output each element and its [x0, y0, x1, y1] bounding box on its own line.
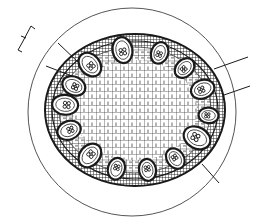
vascular-bundle: [198, 107, 219, 124]
stem-cross-section-diagram: [0, 0, 264, 220]
bracket-symbol-icon: [18, 26, 35, 52]
leader-line-3: [214, 57, 248, 69]
leader-line-4: [224, 86, 250, 95]
